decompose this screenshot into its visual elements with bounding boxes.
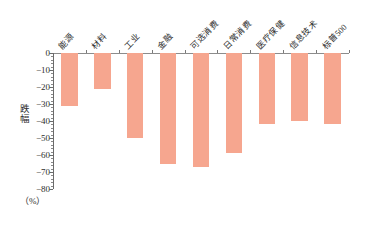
y-axis-minor-tick — [51, 73, 54, 74]
bar — [259, 53, 275, 124]
y-axis-minor-tick — [51, 101, 54, 102]
y-axis-tick-label: −60 — [22, 151, 50, 160]
y-axis-tick-mark — [49, 189, 53, 190]
category-label: 金融 — [155, 31, 175, 51]
y-axis-minor-tick — [51, 67, 54, 68]
x-axis-tick-mark — [185, 50, 186, 53]
x-axis-tick-mark — [349, 50, 350, 53]
y-axis-tick-mark — [49, 121, 53, 122]
y-axis-minor-tick — [51, 94, 54, 95]
y-axis-minor-tick — [51, 186, 54, 187]
y-axis-minor-tick — [51, 60, 54, 61]
y-axis-tick-label: 0 — [22, 49, 50, 58]
category-label: 可选消费 — [188, 18, 221, 51]
y-axis-minor-tick — [51, 175, 54, 176]
y-axis-minor-tick — [51, 169, 54, 170]
category-label: 标普500 — [319, 22, 348, 51]
y-axis-tick-label: −50 — [22, 134, 50, 143]
category-label: 材料 — [89, 31, 109, 51]
x-axis-tick-mark — [316, 50, 317, 53]
y-axis-tick-labels: 0−10−20−30−40−50−60−70−80 — [22, 53, 50, 189]
category-label: 医疗保健 — [254, 18, 287, 51]
y-axis-tick-mark — [49, 70, 53, 71]
x-axis-tick-mark — [217, 50, 218, 53]
y-axis-minor-tick — [51, 141, 54, 142]
bar — [324, 53, 340, 124]
x-axis-tick-mark — [86, 50, 87, 53]
bar — [160, 53, 176, 164]
y-axis-minor-tick — [51, 135, 54, 136]
y-axis-tick-label: −70 — [22, 168, 50, 177]
plot-area — [53, 53, 349, 189]
y-axis-tick-mark — [49, 155, 53, 156]
y-axis-tick-mark — [49, 53, 53, 54]
category-label: 能源 — [56, 31, 76, 51]
y-axis-tick-label: −20 — [22, 83, 50, 92]
y-axis-minor-tick — [51, 97, 54, 98]
y-axis-minor-tick — [51, 84, 54, 85]
y-axis-minor-tick — [51, 80, 54, 81]
y-axis-tick-mark — [49, 172, 53, 173]
x-axis-tick-mark — [152, 50, 153, 53]
y-axis-minor-tick — [51, 90, 54, 91]
y-axis-minor-tick — [51, 158, 54, 159]
category-label: 日常消费 — [221, 18, 254, 51]
x-axis-tick-mark — [283, 50, 284, 53]
bar — [291, 53, 307, 121]
bar-chart: 能源材料工业金融可选消费日常消费医疗保健信息技术标普500 跌幅 0−10−20… — [0, 0, 375, 231]
y-axis-minor-tick — [51, 145, 54, 146]
y-axis-minor-tick — [51, 56, 54, 57]
bar — [127, 53, 143, 138]
y-axis-minor-tick — [51, 148, 54, 149]
y-axis-minor-tick — [51, 124, 54, 125]
bar — [94, 53, 110, 89]
y-axis-minor-tick — [51, 131, 54, 132]
y-axis-tick-mark — [49, 104, 53, 105]
y-axis-minor-tick — [51, 114, 54, 115]
bar — [226, 53, 242, 153]
unit-caption: （%） — [20, 196, 46, 206]
x-axis-tick-mark — [119, 50, 120, 53]
y-axis-minor-tick — [51, 162, 54, 163]
y-axis-minor-tick — [51, 128, 54, 129]
y-axis-minor-tick — [51, 107, 54, 108]
y-axis-tick-mark — [49, 138, 53, 139]
bar — [61, 53, 77, 106]
bar — [193, 53, 209, 167]
y-axis-minor-tick — [51, 111, 54, 112]
y-axis-minor-tick — [51, 182, 54, 183]
category-label: 信息技术 — [287, 18, 320, 51]
y-axis-minor-tick — [51, 118, 54, 119]
y-axis-tick-mark — [49, 87, 53, 88]
y-axis-tick-label: −30 — [22, 100, 50, 109]
y-axis-minor-tick — [51, 152, 54, 153]
y-axis-minor-tick — [51, 165, 54, 166]
y-axis-tick-label: −10 — [22, 66, 50, 75]
y-axis-minor-tick — [51, 179, 54, 180]
y-axis-tick-label: −40 — [22, 117, 50, 126]
y-axis-line — [53, 53, 54, 189]
y-axis-minor-tick — [51, 77, 54, 78]
y-axis-minor-tick — [51, 63, 54, 64]
x-axis-tick-mark — [250, 50, 251, 53]
y-axis-tick-label: −80 — [22, 185, 50, 194]
category-label: 工业 — [122, 31, 142, 51]
